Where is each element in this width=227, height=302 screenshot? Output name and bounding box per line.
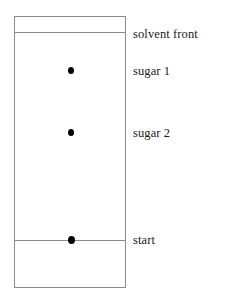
label-start: start bbox=[133, 234, 155, 247]
spot-start bbox=[68, 236, 75, 244]
label-sugar-1: sugar 1 bbox=[133, 65, 170, 78]
chromatography-plate bbox=[14, 16, 126, 288]
label-sugar-2: sugar 2 bbox=[133, 127, 170, 140]
solvent-front-line bbox=[14, 32, 126, 33]
spot-sugar-1 bbox=[68, 67, 74, 74]
chromatography-diagram: solvent front sugar 1 sugar 2 start bbox=[0, 0, 227, 302]
label-solvent-front: solvent front bbox=[133, 28, 198, 41]
spot-sugar-2 bbox=[68, 129, 74, 136]
